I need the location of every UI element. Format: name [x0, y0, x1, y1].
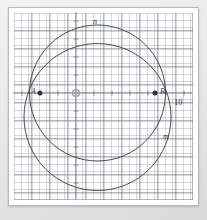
geometry-plot	[0, 0, 207, 220]
scale-label: 10	[174, 98, 183, 107]
circle-m-label: m	[163, 133, 169, 141]
circle-n-label: n	[93, 18, 97, 26]
figure-stage: A B n m 10	[0, 0, 207, 220]
point-a-label: A	[31, 88, 36, 96]
point-a-marker[interactable]	[38, 91, 43, 96]
circle-m	[24, 44, 171, 191]
point-b-label: B	[160, 88, 165, 96]
point-b-marker[interactable]	[153, 91, 158, 96]
